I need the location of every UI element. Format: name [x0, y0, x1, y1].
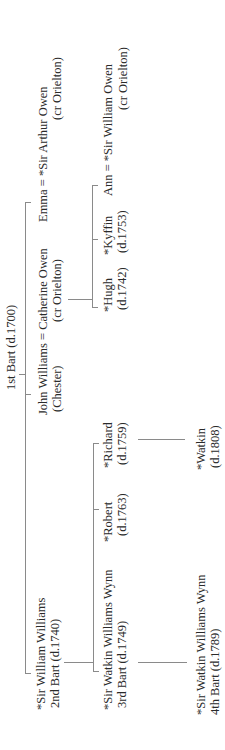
gen1-tick-emma — [25, 202, 31, 203]
hugh-name: *Hugh — [102, 278, 116, 312]
gen2a-tick-robert — [93, 509, 99, 510]
sir-william-williams-title: 2nd Bart (d.1740) — [49, 619, 63, 708]
gen2b-tick-hugh — [92, 307, 98, 308]
kyffin-dates: (d.1753) — [116, 210, 130, 253]
sir-watkin-3rd-title: 3rd Bart (d.1749) — [116, 621, 130, 708]
gen2b-tick-ann — [92, 185, 98, 186]
hugh-dates: (d.1742) — [116, 267, 130, 310]
gen2b-tick-kyffin — [92, 239, 98, 240]
gen2a-tick-sir-watkin — [93, 671, 99, 672]
gen1-bracket-line — [25, 202, 26, 674]
watkin-name: *Watkin — [195, 428, 209, 470]
arthur-origin: (cr Orielton) — [51, 57, 65, 120]
kyffin-name: *Kyffin — [102, 216, 116, 255]
family-tree-diagram: 1st Bart (d.1700) *Sir William Williams … — [0, 0, 225, 750]
sir-watkin-3rd-name: *Sir Watkin Williams Wynn — [102, 570, 116, 710]
sir-watkin-4th-name: *Sir Watkin Williams Wynn — [195, 575, 209, 715]
watkin-dates: (d.1808) — [209, 425, 223, 468]
richard-descent-line — [138, 439, 185, 440]
richard-dates: (d.1759) — [116, 422, 130, 465]
catherine-origin: (cr Orielton) — [51, 259, 65, 322]
gen2b-bracket-line — [92, 185, 93, 308]
robert-dates: (d.1763) — [116, 493, 130, 536]
ann-william-owen-names: Ann = *Sir William Owen — [102, 64, 116, 196]
gen1-tick-sir-william — [25, 673, 31, 674]
sir-william-descent-line — [64, 662, 93, 663]
john-catherine-names: John Williams = Catherine Owen — [37, 248, 51, 415]
john-origin: (Chester) — [51, 365, 65, 412]
gen2a-bracket-line — [93, 443, 94, 672]
gen2a-tick-richard — [93, 443, 99, 444]
root-label: 1st Bart (d.1700) — [5, 305, 19, 390]
sir-watkin-3rd-descent-line — [138, 662, 187, 663]
robert-name: *Robert — [102, 502, 116, 542]
richard-name: *Richard — [102, 422, 116, 468]
catherine-descent-line — [68, 299, 92, 300]
emma-arthur-names: Emma = *Sir Arthur Owen — [37, 86, 51, 222]
gen1-tick-john — [25, 394, 31, 395]
william-owen-origin: (cr Orielton) — [117, 47, 131, 110]
sir-william-williams-name: *Sir William Williams — [35, 598, 49, 710]
sir-watkin-4th-title: 4th Bart (d.1789) — [209, 629, 223, 715]
